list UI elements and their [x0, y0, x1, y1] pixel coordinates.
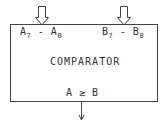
- input-a-start-sub: 7: [27, 32, 32, 40]
- input-a-start: A: [20, 26, 27, 37]
- block-title: COMPARATOR: [50, 57, 120, 67]
- input-b-start: B: [102, 26, 109, 37]
- input-a-end-sub: 0: [57, 32, 62, 40]
- bus-arrow-a-icon: [36, 7, 49, 26]
- input-b-label: B7 - B0: [102, 27, 144, 38]
- input-b-sep: -: [120, 26, 127, 37]
- input-a-sep: -: [38, 26, 45, 37]
- output-label: A ≥ B: [66, 88, 99, 98]
- input-b-end-sub: 0: [139, 32, 144, 40]
- input-b-start-sub: 7: [109, 32, 114, 40]
- input-a-label: A7 - A0: [20, 27, 62, 38]
- bus-arrow-b-icon: [118, 7, 131, 26]
